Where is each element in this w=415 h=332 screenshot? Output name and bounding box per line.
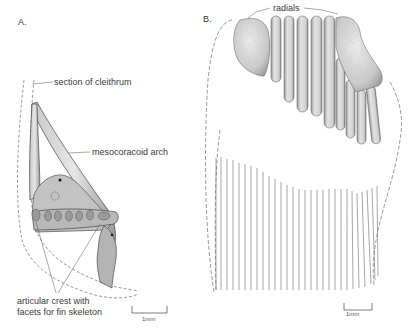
radial	[284, 16, 294, 102]
panel-b-drawing	[206, 8, 402, 310]
radial	[366, 86, 381, 145]
radial	[324, 16, 335, 128]
radial	[357, 90, 366, 144]
radial	[271, 16, 281, 82]
radial	[311, 16, 322, 116]
figure-drawing	[0, 0, 415, 332]
scale-bar-b	[344, 303, 372, 310]
fin-outline-left	[206, 20, 232, 292]
panel-a-drawing	[18, 80, 167, 313]
radial	[297, 16, 308, 112]
scale-bar-a	[132, 306, 167, 313]
foramen-dot	[59, 179, 62, 182]
fin-rays	[216, 157, 378, 290]
radial	[346, 80, 355, 138]
